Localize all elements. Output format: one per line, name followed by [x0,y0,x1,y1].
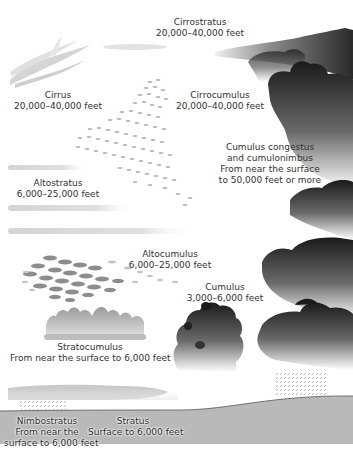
label-cumulus: Cumulus 3,000–6,000 feet [180,282,270,304]
altocumulus-altitude: 6,000–25,000 feet [120,260,220,271]
cumulus-cloud [174,302,244,372]
cumulonimbus-name-2: and cumulonimbus [210,153,330,164]
stratocumulus-altitude: From near the surface to 6,000 feet [10,353,170,364]
nimbostratus-rain [18,400,66,410]
cirrus-altitude: 20,000–40,000 feet [8,101,108,112]
cirrocumulus-altitude: 20,000–40,000 feet [160,101,280,112]
cirrostratus-cloud [103,44,167,50]
cumulonimbus-altitude-1: From near the surface [210,164,330,175]
label-altostratus: Altostratus 6,000–25,000 feet [8,178,108,200]
stratocumulus-name: Stratocumulus [10,342,170,353]
cumulus-name: Cumulus [180,282,270,293]
nimbostratus-altitude-2: surface to 6,000 feet [4,438,90,449]
nimbostratus-name: Nimbostratus [4,416,90,427]
label-cirrostratus: Cirrostratus 20,000–40,000 feet [140,17,260,39]
stratus-altitude: Surface to 6,000 feet [88,427,178,438]
stratocumulus-cloud [44,307,146,340]
label-stratocumulus: Stratocumulus From near the surface to 6… [10,342,170,364]
cumulonimbus-name-1: Cumulus congestus [210,142,330,153]
cumulonimbus-rain [275,372,327,396]
stratus-name: Stratus [88,416,178,427]
label-cirrocumulus: Cirrocumulus 20,000–40,000 feet [160,90,280,112]
cumulus-altitude: 3,000–6,000 feet [180,293,270,304]
label-stratus: Stratus Surface to 6,000 feet [88,416,178,438]
cirrostratus-name: Cirrostratus [140,17,260,28]
cumulonimbus-altitude-2: to 50,000 feet or more [210,175,330,186]
altocumulus-name: Altocumulus [120,249,220,260]
cirrus-cloud [10,36,90,88]
label-cumulonimbus: Cumulus congestus and cumulonimbus From … [210,142,330,186]
cirrus-name: Cirrus [8,90,108,101]
altostratus-altitude: 6,000–25,000 feet [8,189,108,200]
label-cirrus: Cirrus 20,000–40,000 feet [8,90,108,112]
cirrocumulus-name: Cirrocumulus [160,90,280,101]
altostratus-name: Altostratus [8,178,108,189]
nimbostratus-altitude-1: From near the [4,427,90,438]
label-altocumulus: Altocumulus 6,000–25,000 feet [120,249,220,271]
label-nimbostratus: Nimbostratus From near the surface to 6,… [4,416,90,449]
cirrostratus-altitude: 20,000–40,000 feet [140,28,260,39]
stratus-cloud [8,385,178,400]
